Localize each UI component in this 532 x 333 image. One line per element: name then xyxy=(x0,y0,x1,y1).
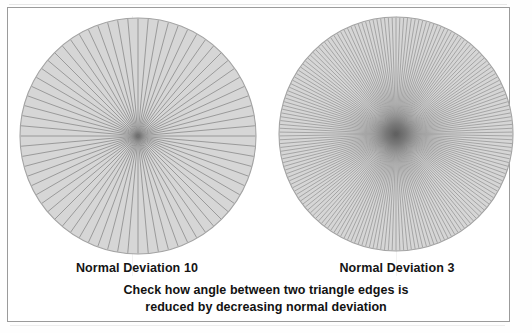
radial-fan-svg-right xyxy=(272,12,520,260)
panel-normal-deviation-3: Normal Deviation 3 xyxy=(272,12,520,275)
panel-normal-deviation-10: Normal Deviation 10 xyxy=(14,12,262,275)
panel-caption-right: Normal Deviation 3 xyxy=(274,261,520,275)
center-smudge-right xyxy=(362,100,430,168)
panel-caption-left: Normal Deviation 10 xyxy=(12,261,262,275)
figure-note-line-2: reduced by decreasing normal deviation xyxy=(0,299,532,316)
radial-fan-svg-left xyxy=(14,12,262,260)
figure-note: Check how angle between two triangle edg… xyxy=(0,282,532,316)
scan-artifact-top xyxy=(9,4,507,5)
fan-diagram-left xyxy=(14,12,262,260)
figure-root: Normal Deviation 10 xyxy=(0,0,532,333)
figure-note-line-1: Check how angle between two triangle edg… xyxy=(0,282,532,299)
fan-diagram-right xyxy=(272,12,520,260)
scan-artifact-bottom xyxy=(10,325,505,326)
center-smudge-left xyxy=(127,125,149,147)
figure-border-frame: Normal Deviation 10 xyxy=(7,7,510,322)
